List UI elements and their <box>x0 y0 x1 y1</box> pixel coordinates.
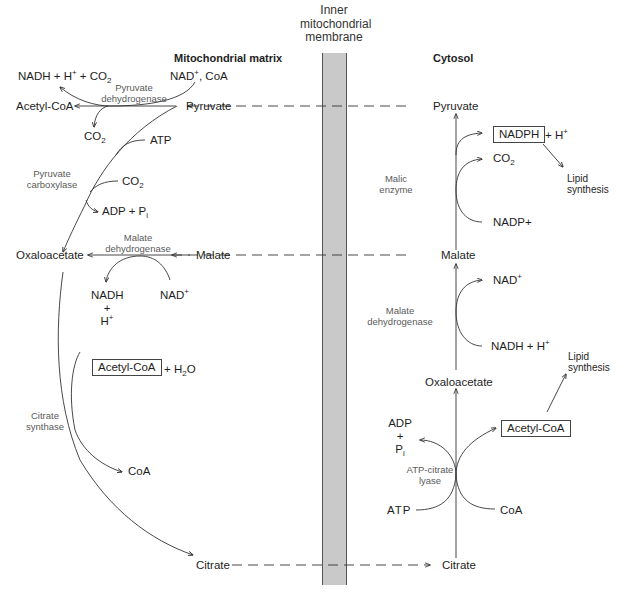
membrane-label: Inner mitochondrial membrane <box>300 4 368 45</box>
nadh-stack-l3: H+ <box>91 315 123 328</box>
p-text: P <box>395 443 403 455</box>
pc-line2: carboxylase <box>22 179 82 190</box>
adp-pi-stack-cytosol: ADP + Pi <box>388 417 412 456</box>
nadp-plus-cytosol: NADP+ <box>493 216 532 229</box>
nadh-h-text: NADH + H <box>18 70 72 82</box>
lipid-2-line2: synthesis <box>568 362 610 373</box>
nadh-h-cytosol-superscript: + <box>545 338 550 347</box>
atp-citrate-lyase-label: ATP-citrate lyase <box>403 464 457 486</box>
h2o-pre: + H <box>164 363 182 375</box>
acetyl-coa-matrix-product: Acetyl-CoA <box>16 100 74 113</box>
nadh-stack-l2: + <box>91 302 123 315</box>
co2-1-text: CO <box>84 130 101 142</box>
adp-stack-l1: ADP <box>388 417 412 430</box>
pyruvate-dehydrogenase-label: Pyruvate dehydrogenase <box>94 82 174 104</box>
lipid-1-line2: synthesis <box>567 184 609 195</box>
adp-stack-l2: + <box>388 430 412 443</box>
coa-text: , CoA <box>199 70 228 82</box>
co2-1-subscript: 2 <box>101 136 105 145</box>
nad-cytosol-superscript: + <box>517 272 522 281</box>
acetyl-coa-cytosol-box: Acetyl-CoA <box>501 420 571 437</box>
h-plus-text: + H <box>545 129 563 141</box>
cs-line2: synthase <box>24 421 66 432</box>
co2-matrix-2: CO2 <box>122 175 144 188</box>
pi-cytosol-subscript: i <box>403 449 405 458</box>
pi-subscript: i <box>146 211 148 220</box>
citrate-matrix: Citrate <box>196 559 230 572</box>
lipid-synthesis-1: Lipid synthesis <box>567 173 609 195</box>
pyruvate-matrix: Pyruvate <box>186 100 231 113</box>
membrane-label-line2: mitochondrial <box>300 18 368 32</box>
matrix-heading: Mitochondrial matrix <box>174 52 282 64</box>
pdh-line1: Pyruvate <box>94 82 174 93</box>
malate-dehydrogenase-matrix-label: Malate dehydrogenase <box>100 232 176 254</box>
adp-stack-l3: Pi <box>388 443 412 456</box>
h-superscript-2: + <box>109 313 114 322</box>
pyruvate-carboxylase-label: Pyruvate carboxylase <box>22 168 82 190</box>
nad-matrix-superscript: + <box>184 287 189 296</box>
nadh-h-cytosol: NADH + H+ <box>491 340 550 353</box>
oxaloacetate-matrix: Oxaloacetate <box>16 249 84 262</box>
h-plus-cytosol: + H+ <box>545 129 568 142</box>
acl-line2: lyase <box>403 475 457 486</box>
cytosol-heading: Cytosol <box>433 52 473 64</box>
malic-line1: Malic <box>372 173 420 184</box>
nadh-h-cytosol-text: NADH + H <box>491 340 545 352</box>
oxaloacetate-cytosol: Oxaloacetate <box>425 376 493 389</box>
pc-line1: Pyruvate <box>22 168 82 179</box>
co2-2-text: CO <box>122 175 139 187</box>
malate-cytosol: Malate <box>441 249 476 262</box>
mdh-cytosol-line2: dehydrogenase <box>364 316 436 327</box>
nad-cytosol-text: NAD <box>493 274 517 286</box>
co2-cytosol-text: CO <box>493 152 510 164</box>
h2o-matrix: + H2O <box>164 363 196 376</box>
lipid-2-line1: Lipid <box>568 351 610 362</box>
mdh-matrix-line2: dehydrogenase <box>100 243 176 254</box>
h-text: H <box>101 315 109 327</box>
mdh-matrix-line1: Malate <box>100 232 176 243</box>
nad-coa-label: NAD+, CoA <box>170 70 228 83</box>
malic-enzyme-label: Malic enzyme <box>372 173 420 195</box>
coa-matrix: CoA <box>128 465 150 478</box>
citrate-synthase-label: Citrate synthase <box>24 410 66 432</box>
co2-cytosol: CO2 <box>493 152 515 165</box>
nad-plus-cytosol: NAD+ <box>493 274 522 287</box>
lipid-synthesis-2: Lipid synthesis <box>568 351 610 373</box>
acetyl-coa-matrix-box: Acetyl-CoA <box>92 359 162 376</box>
h-plus-superscript: + <box>563 127 568 136</box>
co2-text: + CO <box>77 70 107 82</box>
citrate-cytosol: Citrate <box>442 559 476 572</box>
co2-cytosol-subscript: 2 <box>510 158 514 167</box>
nadh-h-stack-matrix: NADH + H+ <box>91 289 123 328</box>
coa-cytosol: CoA <box>500 504 522 517</box>
nadh-stack-l1: NADH <box>91 289 123 302</box>
mdh-cytosol-line1: Malate <box>364 305 436 316</box>
pyruvate-cytosol: Pyruvate <box>433 100 478 113</box>
adp-pi-text: ADP + P <box>102 205 146 217</box>
nad-plus-matrix: NAD+ <box>160 289 189 302</box>
pdh-line2: dehydrogenase <box>94 93 174 104</box>
atp-matrix: ATP <box>150 134 172 147</box>
nadph-box: NADPH <box>493 126 545 143</box>
adp-pi-matrix: ADP + Pi <box>102 205 148 218</box>
malate-dehydrogenase-cytosol-label: Malate dehydrogenase <box>364 305 436 327</box>
nad-text: NAD <box>170 70 194 82</box>
co2-2-subscript: 2 <box>139 181 143 190</box>
nad-matrix-text: NAD <box>160 289 184 301</box>
atp-cytosol: ATP <box>387 504 412 517</box>
co2-matrix-1: CO2 <box>84 130 106 143</box>
h2o-post: O <box>187 363 196 375</box>
acl-line1: ATP-citrate <box>403 464 457 475</box>
malic-line2: enzyme <box>372 184 420 195</box>
lipid-1-line1: Lipid <box>567 173 609 184</box>
cs-line1: Citrate <box>24 410 66 421</box>
malate-matrix: Malate <box>196 249 231 262</box>
membrane-label-line1: Inner <box>300 4 368 18</box>
membrane-label-line3: membrane <box>300 31 368 45</box>
